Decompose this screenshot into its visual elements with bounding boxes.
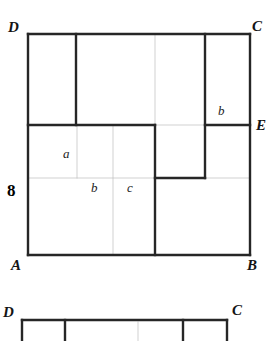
vertex-label-e: E: [256, 118, 266, 133]
vertex-label-d: D: [8, 20, 19, 35]
secondary-vertex-label-c2: C: [232, 303, 242, 318]
vertex-label-a: A: [11, 258, 21, 273]
dimension-label-side-ad: 8: [7, 182, 16, 199]
main-figure-light-gridlines: [28, 34, 250, 255]
secondary-vertex-label-d2: D: [3, 305, 14, 320]
geometry-figure-root: DCEAB8abcbDC: [0, 0, 268, 341]
segment-label-c: c: [127, 181, 133, 194]
main-figure-outline-and-partitions: [28, 34, 250, 255]
vertex-label-c: C: [252, 19, 262, 34]
vertex-label-b: B: [247, 258, 257, 273]
secondary-figure-outline-and-partitions: [22, 320, 227, 341]
segment-label-b-upper-right: b: [218, 104, 225, 117]
geometry-diagram-canvas: [0, 0, 268, 341]
segment-label-a: a: [63, 147, 70, 160]
segment-label-b-lower-left: b: [91, 181, 98, 194]
